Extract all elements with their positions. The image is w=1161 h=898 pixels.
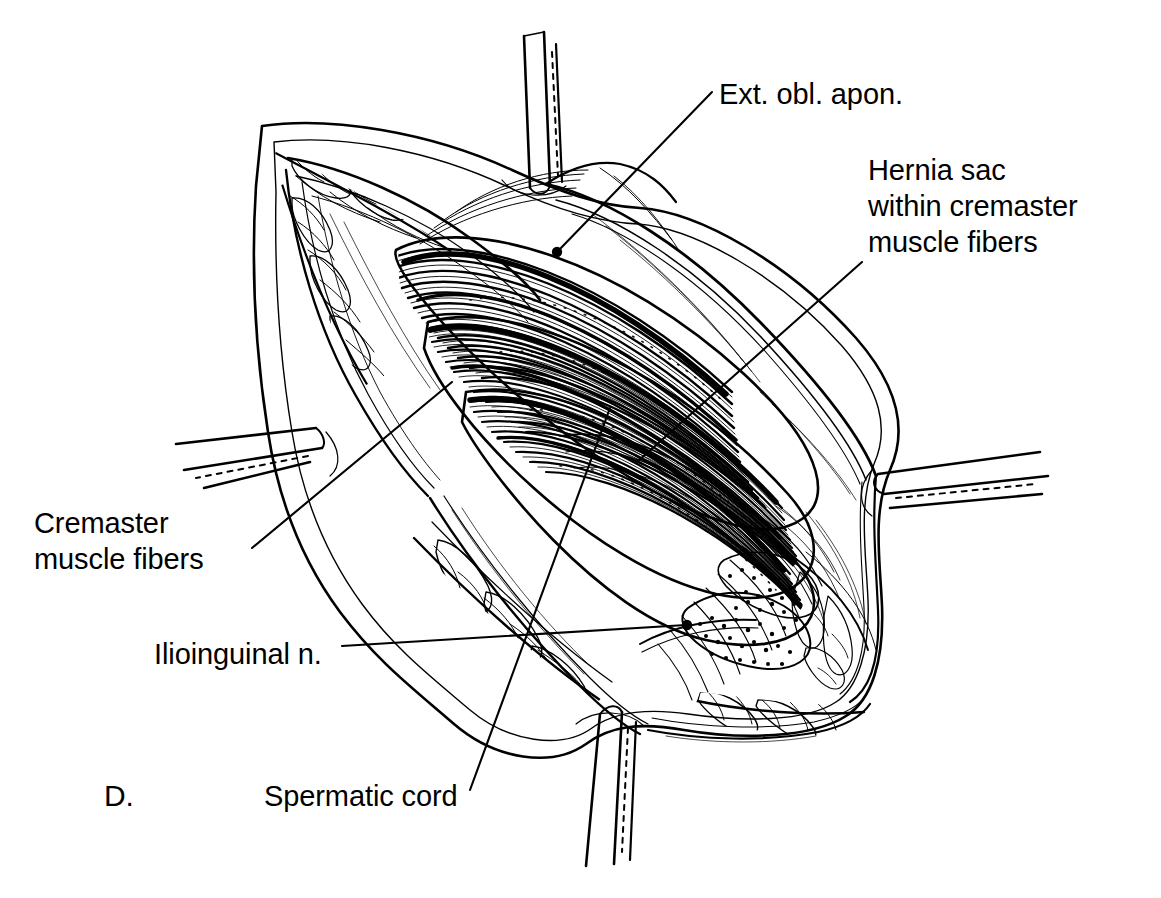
panel-letter: D. bbox=[104, 778, 134, 814]
retractor-right bbox=[862, 452, 1049, 516]
leader-ilioinguinal bbox=[342, 625, 686, 646]
label-ext-obl-apon: Ext. obl. apon. bbox=[719, 76, 903, 112]
leader-dot-ext-obl-apon bbox=[552, 247, 562, 257]
surgical-illustration-figure: Ext. obl. apon. Hernia sac within cremas… bbox=[0, 0, 1161, 898]
retractor-left bbox=[176, 428, 338, 488]
cremaster-muscle-fibers bbox=[392, 170, 840, 700]
leader-ext-obl-apon bbox=[559, 92, 712, 250]
label-hernia-sac: Hernia sac within cremaster muscle fiber… bbox=[868, 152, 1078, 260]
illustration-canvas bbox=[0, 0, 1161, 898]
label-ilioinguinal-nerve: Ilioinguinal n. bbox=[154, 636, 322, 672]
label-cremaster-muscle-fibers: Cremaster muscle fibers bbox=[34, 505, 204, 577]
leader-dot-ilioinguinal bbox=[682, 620, 692, 630]
label-spermatic-cord: Spermatic cord bbox=[264, 778, 458, 814]
leader-cremaster bbox=[252, 382, 452, 548]
